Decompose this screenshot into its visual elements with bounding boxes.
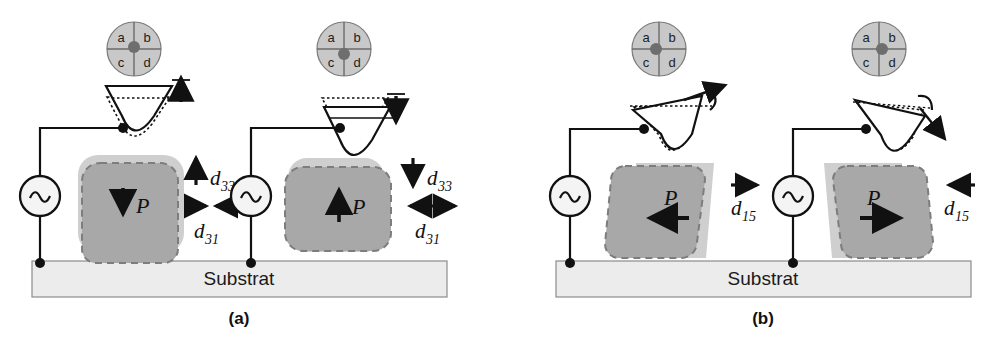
d15-subscript-b-left: 15: [742, 209, 756, 224]
polarization-label-a-left: P: [135, 193, 149, 218]
detector-quadrant-a: a: [117, 30, 125, 45]
polarization-label-a-right: P: [351, 194, 365, 219]
detector-quadrant-d: d: [353, 55, 360, 70]
d31-subscript-a-left: 31: [204, 232, 219, 247]
contact-dot-tip-b-right: [861, 124, 871, 134]
contact-dot-tip-a-right: [335, 123, 345, 133]
detector-quadrant-c: c: [328, 55, 335, 70]
d33-symbol-a-right: d: [427, 166, 438, 190]
detector-quadrant-c: c: [863, 55, 870, 70]
grain-deformed-a-left: [82, 163, 178, 263]
laser-spot: [128, 41, 140, 53]
contact-dot-substrate-b-left: [565, 258, 575, 268]
d31-subscript-a-right: 31: [425, 232, 440, 247]
laser-spot: [650, 43, 662, 55]
contact-dot-substrate-a-left: [35, 258, 45, 268]
d33-subscript-a-right: 33: [437, 179, 452, 194]
contact-dot-substrate-b-right: [788, 258, 798, 268]
substrate-b: Substrat: [556, 261, 971, 297]
grain-deformed-b-right: [833, 166, 933, 258]
detector-quadrant-a: a: [862, 30, 870, 45]
detector-quadrant-b: b: [888, 30, 895, 45]
substrate-label: Substrat: [728, 268, 799, 289]
figure-canvas: Substrat a b c d P: [0, 0, 994, 350]
ac-source-b-right[interactable]: [773, 176, 813, 216]
detector-quadrant-b: b: [353, 30, 360, 45]
d15-subscript-b-right: 15: [955, 209, 969, 224]
quadrant-photodetector-b-right[interactable]: a b c d: [852, 22, 906, 76]
detector-quadrant-d: d: [668, 55, 675, 70]
laser-spot: [876, 43, 888, 55]
d31-symbol-a-left: d: [194, 219, 205, 243]
detector-quadrant-d: d: [888, 55, 895, 70]
d33-symbol-a-left: d: [210, 166, 221, 190]
polarization-label-b-right: P: [866, 185, 880, 210]
detector-quadrant-b: b: [143, 30, 150, 45]
ac-source-a-left[interactable]: [20, 176, 60, 216]
detector-quadrant-c: c: [643, 55, 650, 70]
contact-dot-tip-a-left: [118, 123, 128, 133]
quadrant-photodetector-a-right[interactable]: a b c d: [317, 22, 371, 76]
substrate-label: Substrat: [204, 268, 275, 289]
d31-symbol-a-right: d: [415, 219, 426, 243]
ac-source-a-right[interactable]: [231, 176, 271, 216]
quadrant-photodetector-b-left[interactable]: a b c d: [632, 22, 686, 76]
detector-quadrant-c: c: [118, 55, 125, 70]
detector-quadrant-a: a: [642, 30, 650, 45]
grain-deformed-b-left: [605, 166, 705, 258]
contact-dot-tip-b-left: [639, 124, 649, 134]
ac-source-b-left[interactable]: [550, 176, 590, 216]
panel-caption-b: (b): [752, 309, 774, 328]
detector-quadrant-a: a: [327, 30, 335, 45]
polarization-label-b-left: P: [663, 185, 677, 210]
pfm-figure: Substrat a b c d P: [0, 0, 994, 350]
detector-quadrant-d: d: [143, 55, 150, 70]
detector-quadrant-b: b: [668, 30, 675, 45]
d15-symbol-b-right: d: [944, 196, 955, 220]
contact-dot-substrate-a-right: [246, 258, 256, 268]
laser-spot: [338, 48, 350, 60]
substrate-a: Substrat: [32, 261, 447, 297]
d15-symbol-b-left: d: [731, 196, 742, 220]
panel-caption-a: (a): [229, 309, 250, 328]
quadrant-photodetector-a-left[interactable]: a b c d: [107, 22, 161, 76]
